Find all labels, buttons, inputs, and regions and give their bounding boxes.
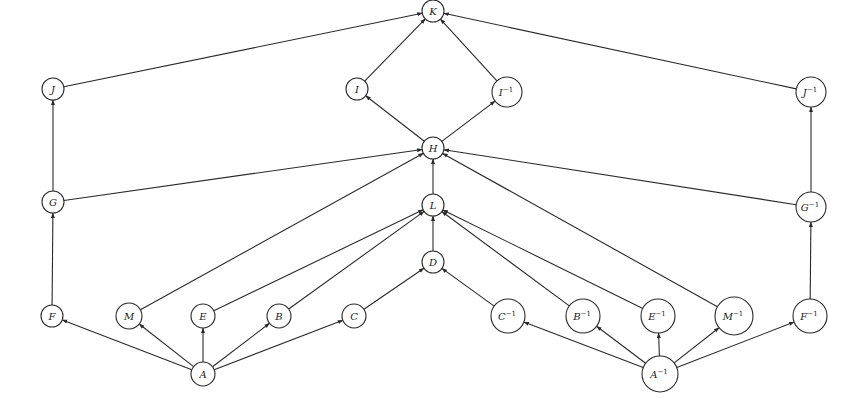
node-label: H — [428, 143, 438, 154]
edge-J-to-K — [64, 13, 422, 87]
edge-G-to-H — [64, 150, 422, 201]
node-label: D — [428, 257, 437, 268]
node-label: G — [49, 197, 57, 208]
node-label: C — [350, 311, 358, 322]
node-I: I — [346, 78, 368, 100]
node-label: A — [198, 369, 206, 380]
node-G: G — [42, 191, 64, 213]
node-Jinv: J−1 — [796, 77, 826, 107]
node-Einv: E−1 — [641, 299, 675, 333]
node-F: F — [41, 305, 63, 327]
edge-H-to-I — [366, 96, 425, 142]
node-B: B — [267, 304, 291, 328]
node-D: D — [422, 251, 444, 273]
edge-C-to-D — [364, 268, 424, 309]
node-label: E — [198, 311, 207, 322]
node-Cinv: C−1 — [491, 299, 525, 333]
edge-B-to-L — [289, 211, 424, 309]
edge-Ginv-to-H — [444, 150, 796, 205]
edge-Ainv-to-Minv — [674, 328, 719, 363]
directed-graph-diagram: KII−1JJ−1HGG−1LDFMEBCC−1B−1E−1M−1F−1AA−1 — [0, 0, 863, 418]
node-Binv: B−1 — [566, 299, 600, 333]
node-Ainv: A−1 — [642, 356, 678, 392]
node-Iinv: I−1 — [492, 77, 522, 107]
edge-M-to-H — [140, 153, 423, 309]
edge-Ainv-to-Binv — [597, 326, 646, 363]
edge-Cinv-to-D — [442, 268, 494, 306]
edge-Finv-to-Ginv — [810, 222, 811, 299]
node-label: J — [49, 84, 56, 95]
node-J: J — [42, 78, 64, 100]
node-label: B — [274, 311, 282, 322]
node-A: A — [191, 362, 215, 386]
edge-E-to-L — [214, 210, 423, 311]
node-E: E — [191, 304, 215, 328]
edge-I-to-K — [365, 19, 426, 81]
edge-Jinv-to-K — [444, 13, 797, 89]
node-H: H — [422, 137, 444, 159]
node-Finv: F−1 — [793, 299, 827, 333]
edge-F-to-G — [52, 213, 53, 305]
node-Minv: M−1 — [715, 297, 753, 335]
edge-Iinv-to-K — [440, 19, 497, 81]
edge-Binv-to-L — [442, 212, 570, 306]
edge-layer — [52, 13, 811, 370]
node-M: M — [116, 303, 142, 329]
node-label: L — [429, 200, 437, 211]
node-L: L — [422, 194, 444, 216]
node-label: M — [123, 311, 135, 322]
edge-A-to-B — [213, 323, 270, 366]
edge-Einv-to-L — [443, 210, 643, 309]
node-Ginv: G−1 — [796, 192, 826, 222]
edge-H-to-Iinv — [442, 101, 495, 141]
node-K: K — [422, 0, 444, 22]
node-label: K — [428, 6, 437, 17]
edge-Ainv-to-Einv — [659, 333, 660, 356]
node-layer: KII−1JJ−1HGG−1LDFMEBCC−1B−1E−1M−1F−1AA−1 — [41, 0, 827, 392]
node-label: F — [48, 311, 57, 322]
node-C: C — [342, 304, 366, 328]
